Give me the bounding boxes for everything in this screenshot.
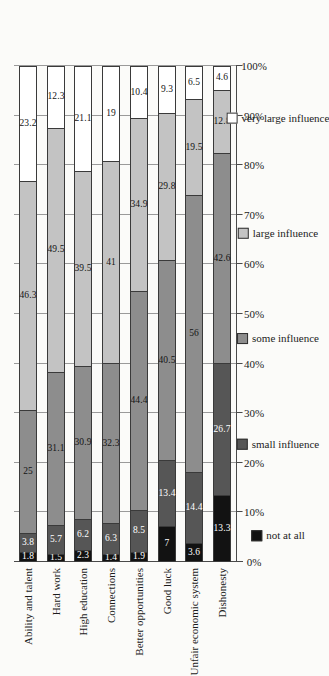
bar-segment[interactable]: 10.4 [131,67,147,118]
bar-value-label: 49.5 [47,246,64,256]
bar-value-label: 23.2 [19,119,36,129]
bar-segment[interactable]: 56 [186,195,202,472]
bar-hard-work[interactable]: 1.55.731.149.512.3 [47,66,65,562]
category-label: Connections [102,568,120,623]
legend-swatch-icon [251,530,262,541]
bar-segment[interactable]: 3.6 [186,543,202,561]
axis-tick-mark [236,263,242,264]
bar-value-label: 30.9 [75,438,92,448]
bar-value-label: 12.3 [47,93,64,103]
bar-value-label: 40.5 [158,356,175,366]
bar-segment[interactable]: 44.4 [131,291,147,510]
bar-segment[interactable]: 26.7 [214,363,230,495]
axis-tick-mark [236,214,242,215]
legend-item[interactable]: small influence [237,438,320,450]
bar-value-label: 44.4 [130,396,147,406]
bar-segment[interactable]: 6.2 [75,519,91,550]
axis-tick-mark [236,412,242,413]
bar-value-label: 10.4 [130,88,147,98]
bar-segment[interactable]: 13.3 [214,495,230,561]
axis-tick-label: 100% [241,60,267,72]
bar-segment[interactable]: 3.8 [20,533,36,552]
bar-better-opportunities[interactable]: 1.98.544.434.910.4 [130,66,148,562]
bar-segment[interactable]: 40.5 [159,260,175,460]
bar-segment[interactable]: 46.3 [20,181,36,410]
legend-item[interactable]: very large influence [227,111,329,123]
bar-segment[interactable]: 30.9 [75,366,91,519]
category-label: Hard work [47,568,65,615]
legend-label: small influence [252,438,320,450]
bar-segment[interactable]: 25 [20,410,36,533]
bar-segment[interactable]: 1.5 [48,554,64,561]
bar-segment[interactable]: 5.7 [48,525,64,553]
legend-label: very large influence [242,111,329,123]
bar-value-label: 21.1 [75,114,92,124]
bar-segment[interactable]: 39.5 [75,171,91,366]
bar-segment[interactable]: 7 [159,526,175,561]
bar-segment[interactable]: 1.8 [20,552,36,561]
bar-segment[interactable]: 34.9 [131,118,147,290]
category-label: Ability and talent [19,568,37,645]
bar-connections[interactable]: 1.46.332.34119 [102,66,120,562]
bar-segment[interactable]: 41 [103,161,119,364]
legend-item[interactable]: some influence [237,332,319,344]
bar-value-label: 1.4 [105,553,117,563]
bar-segment[interactable]: 29.8 [159,113,175,260]
bar-value-label: 31.1 [47,444,64,454]
bar-value-label: 39.5 [75,265,92,275]
bar-segment[interactable]: 21.1 [75,67,91,171]
bar-segment[interactable]: 1.4 [103,554,119,561]
bar-value-label: 19.5 [186,143,203,153]
plot-area: 0%10%20%30%40%50%60%70%80%90%100%Ability… [14,66,236,562]
legend-swatch-icon [227,112,238,123]
bar-segment[interactable]: 12.3 [48,67,64,128]
axis-tick-mark [236,462,242,463]
bar-segment[interactable]: 23.2 [20,67,36,181]
bar-segment[interactable]: 19.5 [186,99,202,195]
bar-value-label: 56 [190,330,200,340]
bar-value-label: 13.3 [214,524,231,534]
axis-tick-mark [236,511,242,512]
bar-segment[interactable]: 4.6 [214,67,230,90]
category-label: Better opportunities [130,568,148,656]
bar-good-luck[interactable]: 713.440.529.89.3 [158,66,176,562]
bar-segment[interactable]: 6.5 [186,67,202,99]
axis-tick-label: 60% [244,258,264,270]
bar-value-label: 46.3 [19,291,36,301]
bar-segment[interactable]: 8.5 [131,510,147,552]
bar-high-education[interactable]: 2.36.230.939.521.1 [74,66,92,562]
bar-dishonesty[interactable]: 13.326.742.612.84.6 [213,66,231,562]
axis-tick-label: 80% [244,159,264,171]
legend-label: some influence [252,332,319,344]
bar-value-label: 34.9 [130,200,147,210]
bar-segment[interactable]: 19 [103,67,119,161]
bar-segment[interactable]: 2.3 [75,550,91,561]
bar-ability-and-talent[interactable]: 1.83.82546.323.2 [19,66,37,562]
bar-segment[interactable]: 14.4 [186,472,202,543]
bar-segment[interactable]: 32.3 [103,363,119,523]
bar-segment[interactable]: 6.3 [103,523,119,554]
bar-segment[interactable]: 9.3 [159,67,175,113]
category-label: Good luck [158,568,176,614]
bar-segment[interactable]: 1.9 [131,552,147,561]
legend-label: large influence [253,227,318,239]
bar-segment[interactable]: 13.4 [159,460,175,526]
bar-value-label: 9.3 [161,85,173,95]
axis-tick-mark [236,561,242,562]
legend-item[interactable]: not at all [251,529,305,541]
axis-tick-label: 70% [244,209,264,221]
bar-value-label: 32.3 [103,439,120,449]
bar-segment[interactable]: 42.6 [214,153,230,363]
legend-swatch-icon [238,227,249,238]
legend-item[interactable]: large influence [238,227,318,239]
bar-value-label: 8.5 [133,526,145,536]
bar-value-label: 41 [106,258,116,268]
bar-value-label: 6.3 [105,534,117,544]
axis-tick-mark [236,313,242,314]
bar-value-label: 19 [106,109,116,119]
bar-value-label: 3.6 [188,548,200,558]
bar-unfair-economic-system[interactable]: 3.614.45619.56.5 [185,66,203,562]
bar-segment[interactable]: 31.1 [48,372,64,525]
bar-segment[interactable]: 49.5 [48,128,64,372]
